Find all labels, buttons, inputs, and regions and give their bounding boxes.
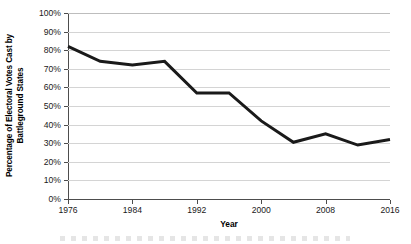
y-axis-tick-mark xyxy=(64,13,68,14)
y-axis-tick-mark xyxy=(64,162,68,163)
y-axis-tick-label: 50% xyxy=(44,102,61,111)
x-axis-tick-mark xyxy=(197,200,198,204)
y-axis-title-line-1: Percentage of Electoral Votes Cast by xyxy=(6,33,17,176)
y-axis-tick-mark xyxy=(64,50,68,51)
y-axis-tick-mark xyxy=(64,69,68,70)
x-axis-tick-label: 1976 xyxy=(58,205,77,215)
y-axis-tick-label: 80% xyxy=(44,46,61,55)
x-axis-tick-mark xyxy=(132,200,133,204)
y-axis-title: Percentage of Electoral Votes Cast by Ba… xyxy=(0,0,32,210)
x-axis-tick-mark xyxy=(261,200,262,204)
y-axis-tick-mark xyxy=(64,32,68,33)
y-axis-tick-mark xyxy=(64,143,68,144)
y-axis-tick-label: 20% xyxy=(44,157,61,166)
scan-artifact xyxy=(60,236,350,241)
x-axis-tick-labels: 197619841992200020082016 xyxy=(0,205,411,219)
x-axis-tick-label: 2008 xyxy=(316,205,335,215)
x-axis-tick-label: 1992 xyxy=(187,205,206,215)
y-axis-tick-mark xyxy=(64,106,68,107)
x-axis-title: Year xyxy=(68,219,390,229)
y-axis-tick-label: 100% xyxy=(39,9,61,18)
y-axis-tick-mark xyxy=(64,125,68,126)
y-axis-title-line-2: Battleground States xyxy=(16,33,27,176)
y-axis-tick-label: 70% xyxy=(44,64,61,73)
x-axis-tick-mark xyxy=(390,200,391,204)
y-axis-tick-mark xyxy=(64,180,68,181)
x-axis-line xyxy=(68,199,390,200)
x-axis-tick-mark xyxy=(68,200,69,204)
x-axis-tick-mark xyxy=(326,200,327,204)
x-axis-tick-label: 2000 xyxy=(252,205,271,215)
data-series-line xyxy=(68,13,390,199)
y-axis-tick-label: 60% xyxy=(44,83,61,92)
y-axis-tick-label: 10% xyxy=(44,176,61,185)
plot-area xyxy=(68,13,390,199)
line-chart-figure: Percentage of Electoral Votes Cast by Ba… xyxy=(0,0,411,244)
x-axis-tick-label: 2016 xyxy=(380,205,399,215)
y-axis-tick-mark xyxy=(64,87,68,88)
y-axis-tick-label: 0% xyxy=(49,195,61,204)
y-axis-tick-label: 90% xyxy=(44,27,61,36)
y-axis-tick-label: 40% xyxy=(44,120,61,129)
y-axis-tick-label: 30% xyxy=(44,139,61,148)
x-axis-tick-label: 1984 xyxy=(123,205,142,215)
